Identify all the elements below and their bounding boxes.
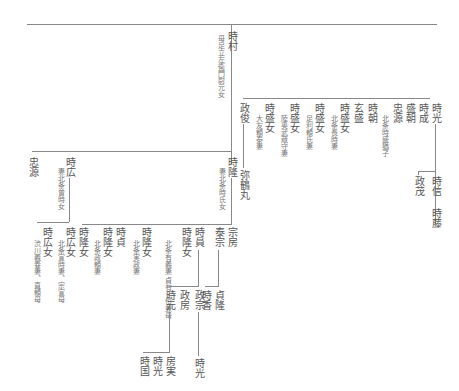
node-chugen: 忠源	[27, 157, 38, 177]
mid-branch-line	[32, 151, 232, 152]
node-chugen-top: 忠源	[391, 103, 402, 123]
node-tokimori-jo-3: 時盛女	[313, 103, 324, 133]
top-branch-stem	[231, 98, 232, 99]
node-tokifuji: 時藤	[430, 208, 441, 228]
node-moritomo: 盛朝	[404, 103, 415, 123]
node-tokitaka: 時隆	[226, 157, 237, 177]
node-yakakumaru: 弥鶴丸	[238, 170, 249, 200]
node-tokimitsu-top: 時光	[430, 103, 441, 123]
node-tokimori-jo-4: 時盛女	[338, 103, 349, 133]
node-tokimori-jo-2: 時盛女	[288, 103, 299, 133]
node-masashige: 政茂	[413, 176, 424, 196]
node-tokinari: 時成	[417, 103, 428, 123]
node-tokitomo: 時朝	[366, 103, 377, 123]
top-branch-line	[243, 98, 430, 99]
node-tokimori-jo-1: 時盛女	[263, 103, 274, 133]
node-tokimura: 時村	[226, 31, 237, 51]
node-tokihiro: 時広	[64, 157, 75, 177]
node-tokinobu: 時信	[430, 176, 441, 196]
node-gensei: 玄盛	[352, 103, 363, 123]
node-masatoshi: 政俊	[238, 103, 249, 123]
note-tokimura: 母足立左衛門尉元女	[217, 35, 225, 98]
top-line	[27, 24, 437, 25]
